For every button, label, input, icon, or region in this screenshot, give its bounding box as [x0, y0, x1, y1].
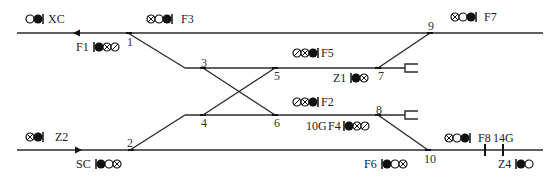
buffer-stop-lower — [405, 111, 418, 119]
signal-z2-label: Z2 — [55, 131, 68, 143]
signal-f2-label: F2 — [321, 96, 334, 108]
switch-number-1: 1 — [127, 36, 133, 48]
switch-point-1 — [126, 32, 132, 34]
signal-f2[interactable]: F2 — [292, 96, 334, 108]
track-section-10g: 10G — [306, 120, 327, 132]
signal-sc-icon — [94, 158, 122, 170]
signal-sc-label: SC — [76, 158, 91, 170]
signal-f1[interactable]: F1 — [76, 41, 120, 53]
switch-8-10-connection — [378, 115, 428, 150]
track-section-14g: 14G — [493, 132, 514, 144]
signal-f3-icon — [146, 13, 174, 25]
switch-number-8: 8 — [376, 104, 382, 116]
signal-f5-label: F5 — [321, 47, 334, 59]
switch-number-2: 2 — [127, 137, 133, 149]
track-layout — [0, 0, 557, 183]
signal-z4-label: Z4 — [498, 158, 511, 170]
signal-f8-icon — [444, 132, 472, 144]
signal-f8[interactable]: F8 — [444, 132, 491, 144]
signal-f1-icon — [92, 41, 120, 53]
signal-z1-label: Z1 — [333, 72, 346, 84]
switch-7-9-connection — [378, 33, 430, 68]
signal-z4[interactable]: Z4 — [498, 158, 534, 170]
switch-number-4: 4 — [201, 117, 207, 129]
signal-xc-label: XC — [48, 13, 65, 25]
switch-number-7: 7 — [378, 70, 384, 82]
signal-xc[interactable]: XC — [25, 13, 65, 25]
switch-number-10: 10 — [424, 153, 436, 165]
signal-f5[interactable]: F5 — [292, 47, 334, 59]
signal-f4-label: F4 — [328, 120, 341, 132]
signal-f3[interactable]: F3 — [146, 13, 194, 25]
signal-sc[interactable]: SC — [76, 158, 122, 170]
switch-number-3: 3 — [201, 57, 207, 69]
arrow-left-icon — [73, 30, 80, 37]
signal-z1-icon — [349, 72, 369, 84]
switch-1-connection — [128, 33, 185, 68]
signal-f6[interactable]: F6 — [364, 158, 408, 170]
signal-xc-icon — [25, 13, 45, 25]
signal-f5-icon — [292, 47, 320, 59]
switch-number-6: 6 — [274, 117, 280, 129]
signal-f4[interactable]: F4 — [328, 120, 370, 132]
signal-f1-label: F1 — [76, 41, 89, 53]
signal-f3-label: F3 — [181, 13, 194, 25]
signal-f2-icon — [292, 96, 320, 108]
signal-f7[interactable]: F7 — [450, 11, 497, 23]
switch-number-5: 5 — [274, 70, 280, 82]
switch-2-connection — [130, 115, 185, 150]
signal-f6-label: F6 — [364, 158, 377, 170]
switch-number-9: 9 — [428, 20, 434, 32]
signal-f8-label: F8 — [478, 132, 491, 144]
signal-f4-icon — [342, 120, 370, 132]
signal-f7-label: F7 — [484, 11, 497, 23]
signal-z1[interactable]: Z1 — [333, 72, 369, 84]
signal-z2[interactable]: Z2 — [25, 131, 68, 143]
signal-z2-icon — [25, 131, 45, 143]
buffer-stop-upper — [405, 64, 418, 72]
signal-f6-icon — [380, 158, 408, 170]
arrow-right-icon — [75, 147, 82, 154]
switch-point-10 — [425, 149, 431, 151]
signal-f7-icon — [450, 11, 478, 23]
station-track-diagram: 1 2 3 4 5 6 7 8 9 10 XC F3 F1 — [0, 0, 557, 183]
signal-z4-icon — [514, 158, 534, 170]
